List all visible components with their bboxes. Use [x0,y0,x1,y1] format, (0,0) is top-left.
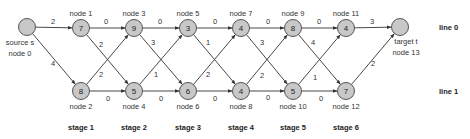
edge-weight: 0 [213,94,217,103]
node-label: node 3 [123,9,146,18]
stage-label: stage 3 [175,123,201,132]
node-value: 9 [132,24,137,33]
node-12: 7node 12 [332,83,359,112]
node-label: node 11 [333,9,360,18]
node-label: target t [394,37,418,46]
node-value: 4 [344,24,349,33]
node-label: source s [6,38,35,47]
edge-weight: 1 [313,73,317,82]
node-4: 5node 4 [123,83,146,112]
stage-label: stage 4 [228,123,255,132]
edge-weight: 0 [104,17,108,26]
edges-layer [32,27,394,91]
node-label: node 12 [332,102,359,111]
node-8: 4node 8 [230,83,253,112]
node-label: node 2 [70,102,93,111]
edge-weight: 2 [371,59,375,68]
node-label: node 8 [230,102,253,111]
node-10: 5node 10 [279,83,306,112]
node-label: node 9 [282,9,305,18]
stage-label: stage 1 [68,123,94,132]
stage-label: stage 6 [333,123,359,132]
node-label: node 4 [123,102,146,111]
edge-weight: 0 [266,17,270,26]
edge-weight: 2 [260,71,264,80]
assembly-line-graph: 240220031001200320041032 source snode 07… [0,0,470,139]
edge-11-to-13 [354,27,391,28]
edge-weight: 3 [151,38,155,47]
edge-weights-layer: 240220031001200320041032 [51,17,375,103]
edge-weight: 0 [317,17,321,26]
node-value: 4 [239,24,244,33]
node-label: node 0 [9,49,32,58]
node-label: node 6 [177,102,200,111]
line-label: line 1 [439,87,458,96]
edge-weight: 3 [370,17,374,26]
node-value: 8 [291,24,296,33]
node-value: 7 [344,87,349,96]
node-value: 7 [79,24,84,33]
line-label: line 0 [439,23,458,32]
edge-0-to-1 [35,27,72,28]
node-7: 4node 7 [230,9,253,37]
node-13: target tnode 13 [392,19,420,58]
node-5: 3node 5 [177,9,200,37]
stage-labels: stage 1stage 2stage 3stage 4stage 5stage… [68,123,359,132]
line-labels: line 0line 1 [439,23,458,96]
node-value: 6 [186,87,191,96]
edge-weight: 2 [99,40,103,49]
node-circle [19,19,36,36]
edge-weight: 2 [51,17,55,26]
node-label: node 5 [177,9,200,18]
edge-weight: 3 [260,38,264,47]
edge-weight: 0 [213,17,217,26]
node-11: 4node 11 [333,9,360,37]
node-label: node 10 [279,102,306,111]
edge-weight: 0 [106,94,110,103]
edge-weight: 2 [99,70,103,79]
node-label: node 1 [70,9,93,18]
node-circle [392,19,409,36]
edge-weight: 0 [319,94,323,103]
node-0: source snode 0 [6,19,36,59]
edge-weight: 2 [206,70,210,79]
edge-weight: 0 [158,17,162,26]
node-value: 8 [79,87,84,96]
node-label: node 7 [230,9,253,18]
node-value: 4 [239,87,244,96]
node-2: 8node 2 [70,83,93,112]
node-value: 5 [132,87,137,96]
node-value: 5 [291,87,296,96]
edge-weight: 0 [266,93,270,102]
node-3: 9node 3 [123,9,146,37]
node-value: 3 [186,24,191,33]
edge-weight: 0 [159,94,163,103]
node-1: 7node 1 [70,9,93,37]
edge-weight: 1 [206,38,210,47]
stage-label: stage 2 [121,123,147,132]
stage-label: stage 5 [280,123,306,132]
node-6: 6node 6 [177,83,200,112]
edge-weight: 4 [51,59,55,68]
node-9: 8node 9 [282,9,305,37]
edge-weight: 4 [311,38,315,47]
edge-weight: 1 [154,70,158,79]
node-label: node 13 [392,48,419,57]
